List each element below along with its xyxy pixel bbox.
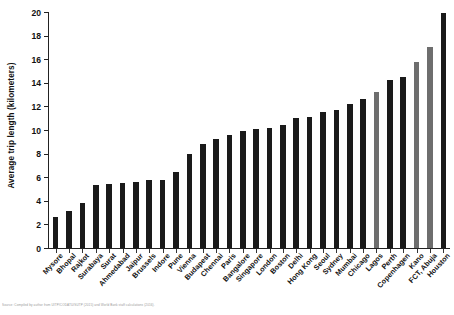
y-axis-tick-label: 18 (31, 32, 41, 41)
y-axis-tick-label: 0 (36, 244, 41, 253)
bar (387, 80, 393, 248)
bar (293, 118, 299, 248)
bar (53, 217, 59, 248)
bar (280, 125, 286, 248)
bar (80, 203, 86, 248)
plot-area: 02468101214161820 (48, 12, 450, 248)
y-axis-tick-label: 20 (31, 8, 41, 17)
bar (120, 183, 126, 248)
bar (93, 185, 99, 248)
y-axis-title-text: Average trip length (kilometers) (7, 62, 16, 188)
bar (240, 131, 246, 248)
y-axis-tick-label: 16 (31, 55, 41, 64)
bar (133, 182, 139, 248)
bar (334, 110, 340, 248)
bar (66, 211, 72, 248)
y-axis-tick-label: 8 (36, 150, 41, 159)
figure-source-caption: Source: Compiled by author from UITP/COD… (2, 303, 452, 313)
bar (213, 139, 219, 248)
bar (253, 129, 259, 248)
y-axis-tick-label: 4 (36, 197, 41, 206)
y-axis-tick-label: 14 (31, 79, 41, 88)
bar (400, 77, 406, 248)
bar (187, 154, 193, 248)
bar (267, 128, 273, 248)
bar (146, 180, 152, 248)
bar (414, 62, 420, 248)
x-axis-labels: MysoreBhopalRajkotSurabayaSuratAhmedabad… (48, 252, 452, 308)
bar (200, 144, 206, 248)
y-axis-tick-label: 10 (31, 126, 41, 135)
bar (320, 112, 326, 248)
bar (374, 92, 380, 248)
bar (227, 135, 233, 248)
y-axis-title: Average trip length (kilometers) (0, 0, 22, 250)
bar (441, 13, 447, 248)
bar-series (49, 12, 450, 248)
bar-chart-figure: Average trip length (kilometers) 0246810… (0, 0, 454, 315)
bar (160, 180, 166, 248)
y-axis-tick-label: 6 (36, 173, 41, 182)
bar (347, 104, 353, 248)
bar (360, 99, 366, 248)
bar (106, 184, 112, 248)
bar (173, 172, 179, 248)
y-axis-tick-label: 2 (36, 221, 41, 230)
bar (427, 47, 433, 248)
bar (307, 117, 313, 248)
y-axis-tick-label: 12 (31, 103, 41, 112)
y-axis-tick: 0 (44, 248, 49, 249)
